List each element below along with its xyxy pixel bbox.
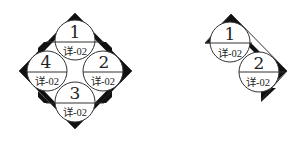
diagram-canvas: 1 详-02 4 详-02 2 详-02 3 详-02 (0, 0, 305, 142)
index-circle-1: 1 详-02 (55, 20, 95, 60)
circle-ref: 详-02 (91, 75, 115, 87)
circle-number: 1 (70, 22, 81, 42)
index-circle-2: 2 详-02 (83, 51, 123, 91)
circle-number: 2 (254, 53, 265, 73)
circle-ref: 详-02 (35, 75, 59, 87)
half-diamond-index-symbol: 1 详-02 2 详-02 (205, 14, 287, 102)
index-circle-2: 2 详-02 (239, 52, 285, 92)
circle-number: 2 (99, 52, 110, 72)
index-circle-1: 1 详-02 (205, 22, 250, 62)
index-circle-4: 4 详-02 (27, 51, 67, 91)
circle-ref: 详-02 (63, 45, 87, 57)
circle-number: 4 (41, 52, 52, 72)
circle-number: 1 (225, 24, 236, 44)
circle-ref: 详-02 (246, 76, 270, 88)
circle-ref: 详-02 (63, 106, 87, 118)
circle-ref: 详-02 (218, 47, 242, 59)
circle-number: 3 (70, 83, 81, 103)
index-circle-3: 3 详-02 (55, 82, 95, 122)
full-diamond-index-symbol: 1 详-02 4 详-02 2 详-02 3 详-02 (19, 13, 132, 129)
